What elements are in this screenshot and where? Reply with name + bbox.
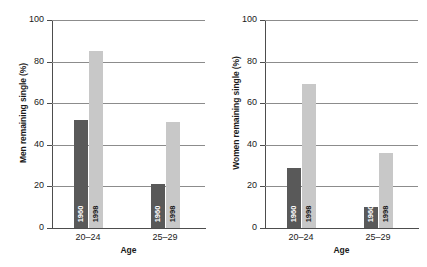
y-tick-label-40: 40	[231, 140, 257, 149]
y-tick-80	[260, 62, 265, 63]
x-tick-label-women-0: 20–24	[279, 232, 323, 242]
chart-panel-women: Women remaining single (%) 1960199819601…	[213, 0, 426, 267]
bar-year-label-1998: 1998	[305, 206, 313, 223]
bar-year-label-1960: 1960	[77, 206, 85, 223]
y-tick-0	[260, 228, 265, 229]
plot-area-women: 1960199819601998	[265, 20, 418, 228]
y-tick-label-40: 40	[18, 140, 44, 149]
bar-women-25-29-1960: 1960	[364, 207, 378, 228]
x-axis-line-men	[52, 228, 206, 229]
y-tick-label-wrap-100: 100	[14, 15, 44, 25]
gridline-80	[265, 62, 418, 63]
gridline-80	[52, 62, 205, 63]
x-axis-title-women: Age	[265, 245, 418, 255]
y-tick-label-wrap-80: 80	[227, 57, 257, 67]
y-tick-100	[47, 20, 52, 21]
figure-marriage-single-rates: Men remaining single (%) 196019981960199…	[0, 0, 427, 267]
y-tick-label-0: 0	[231, 223, 257, 232]
y-tick-60	[260, 103, 265, 104]
x-axis-line-women	[265, 228, 419, 229]
bar-year-label-1960: 1960	[154, 206, 162, 223]
y-tick-label-wrap-40: 40	[227, 140, 257, 150]
x-tick-label-men-1: 25–29	[143, 232, 187, 242]
y-tick-40	[260, 145, 265, 146]
y-tick-label-wrap-80: 80	[14, 57, 44, 67]
gridline-60	[52, 103, 205, 104]
bar-men-20-24-1998: 1998	[89, 51, 103, 228]
y-tick-label-20: 20	[231, 181, 257, 190]
bar-year-label-1960: 1960	[290, 206, 298, 223]
y-tick-label-100: 100	[18, 15, 44, 24]
y-tick-label-wrap-0: 0	[14, 223, 44, 233]
y-tick-label-wrap-40: 40	[14, 140, 44, 150]
y-tick-80	[47, 62, 52, 63]
gridline-40	[265, 145, 418, 146]
bar-year-label-1960: 1960	[367, 206, 375, 223]
y-tick-0	[47, 228, 52, 229]
gridline-100	[265, 20, 418, 21]
y-tick-label-80: 80	[18, 57, 44, 66]
y-tick-label-wrap-100: 100	[227, 15, 257, 25]
y-tick-label-100: 100	[231, 15, 257, 24]
y-tick-label-20: 20	[18, 181, 44, 190]
y-tick-label-wrap-60: 60	[227, 98, 257, 108]
y-tick-label-wrap-20: 20	[227, 181, 257, 191]
y-tick-label-60: 60	[18, 98, 44, 107]
bar-year-label-1998: 1998	[169, 206, 177, 223]
y-tick-label-wrap-60: 60	[14, 98, 44, 108]
plot-area-men: 1960199819601998	[52, 20, 205, 228]
bar-year-label-1998: 1998	[382, 206, 390, 223]
gridline-60	[265, 103, 418, 104]
bar-men-20-24-1960: 1960	[74, 120, 88, 228]
y-tick-label-wrap-20: 20	[14, 181, 44, 191]
bar-women-20-24-1998: 1998	[302, 84, 316, 228]
y-tick-40	[47, 145, 52, 146]
x-tick-label-women-1: 25–29	[356, 232, 400, 242]
y-tick-60	[47, 103, 52, 104]
y-tick-label-wrap-0: 0	[227, 223, 257, 233]
y-tick-20	[47, 186, 52, 187]
chart-panel-men: Men remaining single (%) 196019981960199…	[0, 0, 213, 267]
bar-year-label-1998: 1998	[92, 206, 100, 223]
bar-men-25-29-1960: 1960	[151, 184, 165, 228]
y-tick-100	[260, 20, 265, 21]
gridline-100	[52, 20, 205, 21]
x-axis-title-men: Age	[52, 245, 205, 255]
y-tick-label-80: 80	[231, 57, 257, 66]
y-tick-label-0: 0	[18, 223, 44, 232]
bar-men-25-29-1998: 1998	[166, 122, 180, 228]
bar-women-25-29-1998: 1998	[379, 153, 393, 228]
x-tick-label-men-0: 20–24	[66, 232, 110, 242]
y-tick-label-60: 60	[231, 98, 257, 107]
bar-women-20-24-1960: 1960	[287, 168, 301, 228]
y-tick-20	[260, 186, 265, 187]
